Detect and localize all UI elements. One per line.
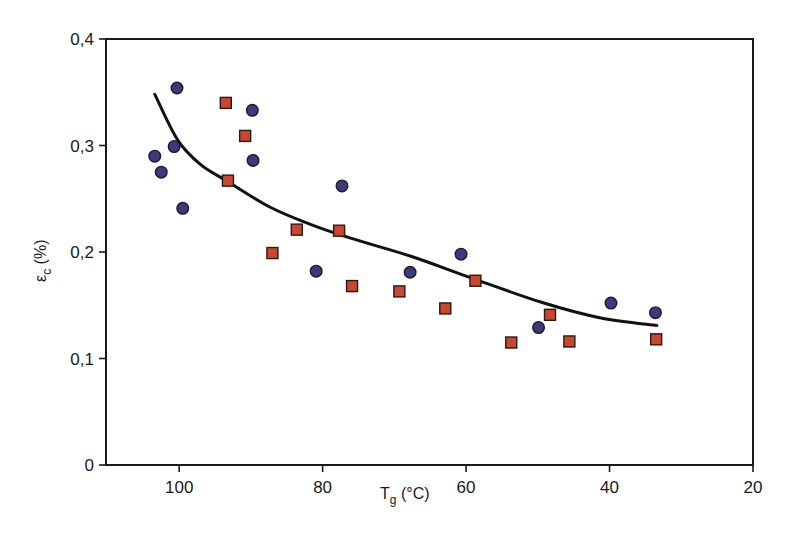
fit-curve bbox=[155, 94, 657, 325]
plot-frame bbox=[106, 39, 753, 465]
y-axis-label: εc (%) bbox=[32, 240, 54, 282]
circle-data-point bbox=[155, 166, 167, 178]
square-data-point bbox=[267, 248, 278, 259]
square-data-point bbox=[651, 334, 662, 345]
circle-data-point bbox=[455, 248, 467, 260]
square-data-point bbox=[440, 303, 451, 314]
circle-data-point bbox=[650, 307, 662, 319]
square-data-point bbox=[470, 275, 481, 286]
square-data-point bbox=[334, 225, 345, 236]
circle-data-point bbox=[605, 297, 617, 309]
x-tick-label: 60 bbox=[457, 478, 476, 497]
y-tick-label: 0,2 bbox=[70, 243, 94, 262]
square-data-point bbox=[394, 286, 405, 297]
circle-data-point bbox=[247, 105, 259, 117]
square-data-point bbox=[291, 224, 302, 235]
square-data-point bbox=[240, 130, 251, 141]
y-tick-label: 0,1 bbox=[70, 350, 94, 369]
circle-data-point bbox=[336, 180, 348, 192]
circle-data-point bbox=[168, 141, 180, 153]
square-data-point bbox=[506, 337, 517, 348]
circle-data-point bbox=[177, 203, 189, 215]
square-data-point bbox=[347, 281, 358, 292]
square-data-point bbox=[545, 309, 556, 320]
circle-data-point bbox=[310, 265, 322, 277]
x-axis-ticks: 10080604020 bbox=[165, 465, 762, 497]
circle-data-point bbox=[171, 82, 183, 94]
data-series bbox=[149, 82, 662, 348]
y-tick-label: 0,3 bbox=[70, 137, 94, 156]
y-tick-label: 0,4 bbox=[70, 30, 94, 49]
x-tick-label: 80 bbox=[313, 478, 332, 497]
x-tick-label: 100 bbox=[165, 478, 193, 497]
circle-data-point bbox=[149, 150, 161, 162]
y-axis-ticks: 00,10,20,30,4 bbox=[70, 30, 106, 475]
y-tick-label: 0 bbox=[85, 456, 94, 475]
square-data-point bbox=[220, 97, 231, 108]
circle-data-point bbox=[404, 266, 416, 278]
circle-data-point bbox=[533, 322, 545, 334]
square-data-point bbox=[222, 175, 233, 186]
x-axis-label: Tg (°C) bbox=[380, 485, 430, 507]
x-tick-label: 40 bbox=[600, 478, 619, 497]
square-data-point bbox=[564, 336, 575, 347]
x-tick-label: 20 bbox=[744, 478, 763, 497]
scatter-chart: 10080604020 00,10,20,30,4 Tg (°C) εc (%) bbox=[0, 0, 789, 544]
circle-data-point bbox=[247, 155, 259, 167]
